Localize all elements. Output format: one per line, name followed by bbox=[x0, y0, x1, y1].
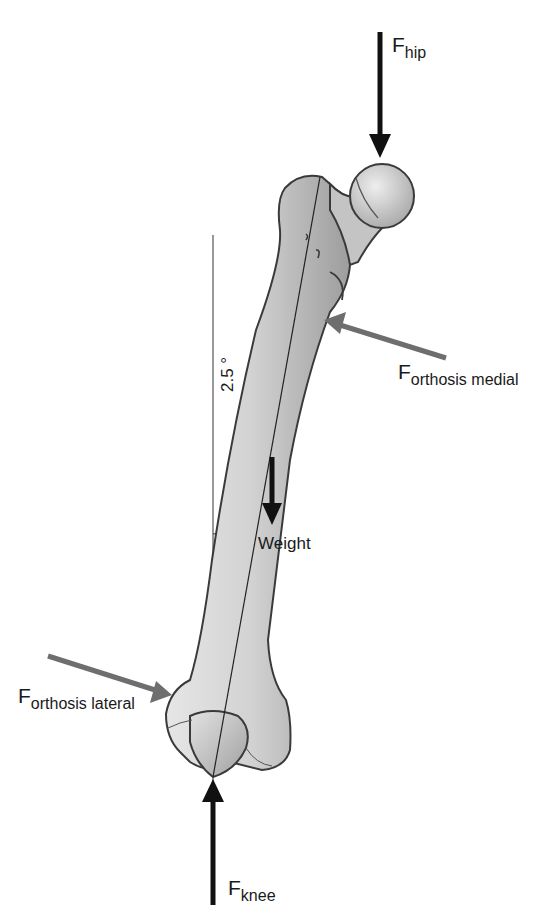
force-symbol: F bbox=[18, 684, 31, 707]
femur-bone bbox=[166, 164, 414, 777]
knee-force-label: Fknee bbox=[228, 877, 276, 898]
angle-label: 2.5 ° bbox=[218, 357, 238, 392]
femur-force-diagram: Fhip Forthosis medial 2.5 ° Weight Forth… bbox=[0, 0, 546, 919]
hip-force-arrow bbox=[369, 32, 391, 158]
weight-label: Weight bbox=[258, 534, 311, 554]
orthosis-medial-force-arrow bbox=[324, 312, 446, 358]
knee-force-arrow bbox=[202, 779, 224, 905]
force-symbol: F bbox=[392, 33, 405, 56]
force-subscript: orthosis medial bbox=[411, 371, 519, 388]
force-symbol: F bbox=[228, 876, 241, 899]
orthosis-medial-force-label: Forthosis medial bbox=[398, 361, 518, 382]
orthosis-lateral-force-label: Forthosis lateral bbox=[18, 685, 135, 706]
force-subscript: knee bbox=[241, 887, 276, 904]
hip-force-label: Fhip bbox=[392, 34, 426, 55]
force-subscript: hip bbox=[405, 44, 426, 61]
force-symbol: F bbox=[398, 360, 411, 383]
force-subscript: orthosis lateral bbox=[31, 695, 135, 712]
diagram-canvas bbox=[0, 0, 546, 919]
